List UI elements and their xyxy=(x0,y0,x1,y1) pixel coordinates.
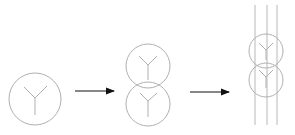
wye-symbol-icon xyxy=(24,86,47,115)
stage-two-winding xyxy=(126,44,170,126)
stage-single-winding xyxy=(9,73,61,125)
wye-symbol-icon xyxy=(259,70,273,88)
diagram-svg xyxy=(0,0,295,135)
wye-symbol-icon xyxy=(140,93,157,117)
diagram-canvas xyxy=(0,0,295,135)
stage-two-winding-with-conductors xyxy=(249,5,283,125)
wye-symbol-icon xyxy=(259,43,273,60)
wye-symbol-icon xyxy=(139,56,157,80)
